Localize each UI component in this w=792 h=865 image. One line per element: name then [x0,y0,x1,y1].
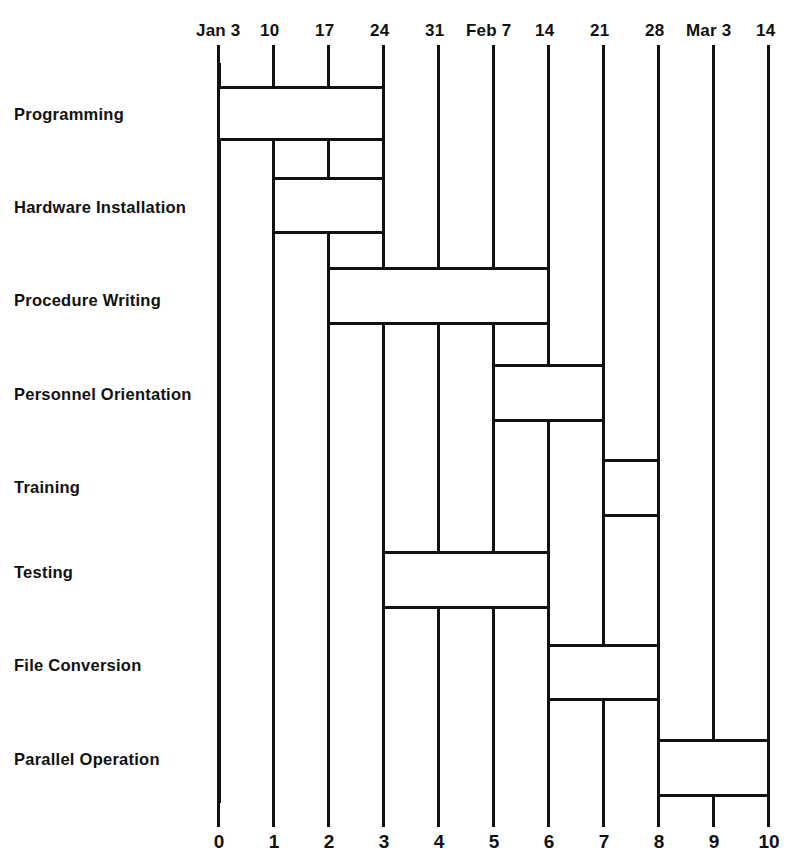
top-tick-mark-2 [327,45,330,63]
gantt-chart: Jan 3 10 17 24 31 Feb 7 14 21 28 Mar 3 1… [0,0,792,865]
task-label-programming: Programming [14,106,124,123]
bottom-tick-mark-6 [547,803,550,827]
top-tick-mark-3 [382,45,385,63]
gantt-bar-training[interactable] [602,459,660,517]
gridline-0 [217,63,221,803]
bottom-tick-mark-3 [382,803,385,827]
top-tick-label-9: Mar 3 [686,22,731,39]
gridline-3 [382,63,385,803]
gantt-bar-procedure-writing[interactable] [327,267,550,325]
gridline-5 [492,63,495,803]
top-tick-label-4: 31 [425,22,444,39]
gridline-2 [327,63,330,803]
bottom-tick-label-1: 1 [269,832,280,851]
top-tick-mark-9 [712,45,715,63]
task-label-procedure-writing: Procedure Writing [14,292,161,309]
gantt-bar-parallel-operation[interactable] [657,739,770,797]
bottom-tick-mark-4 [437,803,440,827]
top-tick-mark-1 [272,45,275,63]
top-tick-label-7: 21 [590,22,609,39]
gantt-bar-personnel-orientation[interactable] [492,364,605,422]
task-label-training: Training [14,479,80,496]
bottom-tick-label-6: 6 [544,832,555,851]
bottom-tick-label-7: 7 [599,832,610,851]
task-label-file-conversion: File Conversion [14,657,142,674]
gantt-bar-testing[interactable] [382,551,550,609]
task-label-hardware-installation: Hardware Installation [14,199,186,216]
top-tick-mark-0 [217,45,220,63]
bottom-tick-mark-8 [657,803,660,827]
top-tick-mark-4 [437,45,440,63]
task-label-testing: Testing [14,564,73,581]
top-tick-label-1: 10 [260,22,279,39]
bottom-tick-label-2: 2 [324,832,335,851]
bottom-tick-label-5: 5 [489,832,500,851]
top-tick-label-2: 17 [315,22,334,39]
bottom-tick-mark-0 [217,803,220,827]
top-tick-mark-10 [767,45,770,63]
top-tick-label-8: 28 [645,22,664,39]
bottom-tick-label-8: 8 [654,832,665,851]
bottom-tick-mark-10 [767,803,770,827]
top-tick-label-10: 14 [756,22,775,39]
bottom-tick-label-3: 3 [379,832,390,851]
bottom-tick-label-10: 10 [758,832,779,851]
bottom-tick-mark-1 [272,803,275,827]
bottom-tick-mark-9 [712,803,715,827]
gridline-9 [712,63,715,803]
gridline-10 [767,63,770,803]
gridline-4 [437,63,440,803]
top-tick-label-5: Feb 7 [466,22,511,39]
bottom-tick-mark-5 [492,803,495,827]
top-tick-mark-8 [657,45,660,63]
bottom-tick-mark-2 [327,803,330,827]
task-label-parallel-operation: Parallel Operation [14,751,160,768]
bottom-tick-mark-7 [602,803,605,827]
gridline-1 [272,63,275,803]
top-tick-label-3: 24 [370,22,389,39]
bottom-tick-label-0: 0 [214,832,225,851]
top-tick-label-6: 14 [535,22,554,39]
task-label-personnel-orientation: Personnel Orientation [14,386,192,403]
gantt-bar-hardware-installation[interactable] [272,177,385,234]
bottom-tick-label-4: 4 [434,832,445,851]
gantt-bar-file-conversion[interactable] [547,644,660,701]
top-tick-mark-7 [602,45,605,63]
top-tick-label-0: Jan 3 [196,22,240,39]
bottom-tick-label-9: 9 [709,832,720,851]
top-tick-mark-6 [547,45,550,63]
gantt-bar-programming[interactable] [217,86,385,141]
top-tick-mark-5 [492,45,495,63]
